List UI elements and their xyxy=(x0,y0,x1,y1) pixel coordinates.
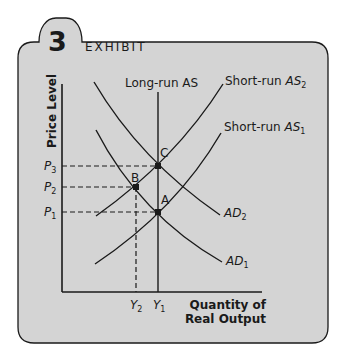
sras1-label: Short-run AS1 xyxy=(224,120,305,136)
x-axis-title-line2: Real Output xyxy=(185,312,266,326)
point-a-label: A xyxy=(161,193,170,207)
x-axis-title-line1: Quantity of xyxy=(190,298,267,312)
exhibit-panel-frame xyxy=(18,18,328,343)
point-b-label: B xyxy=(131,171,139,185)
sras2-label: Short-run AS2 xyxy=(225,74,306,90)
point-c-marker xyxy=(155,163,161,169)
point-a-marker xyxy=(155,209,161,215)
exhibit-number: 3 xyxy=(48,26,67,57)
lras-label: Long-run AS xyxy=(125,76,198,90)
y-axis-title: Price Level xyxy=(45,74,59,148)
point-c-label: C xyxy=(160,146,168,160)
exhibit-figure: 3 EXHIBIT Price Level C B A Long-run AS … xyxy=(0,0,344,360)
exhibit-label: EXHIBIT xyxy=(85,40,146,54)
